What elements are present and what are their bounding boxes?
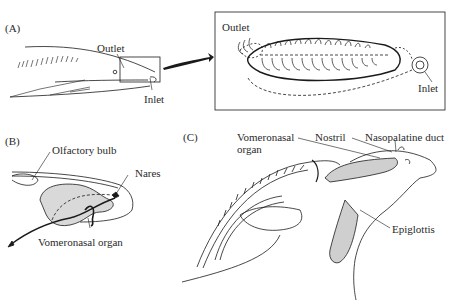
panel-label-c: (C) [183,131,198,143]
fish-head-drawing [10,47,160,97]
label-outlet: Outlet [97,42,125,54]
inset-label-inlet: Inlet [418,82,438,94]
inset-label-outlet: Outlet [222,21,250,33]
label-epiglottis: Epiglottis [392,223,435,235]
arrow-icon [163,53,214,70]
label-inlet: Inlet [144,93,164,105]
label-nostril: Nostril [315,131,346,143]
label-olfactory-bulb: Olfactory bulb [52,144,116,156]
label-leaders-a [117,54,152,90]
olfactory-rosette-drawing [238,38,432,95]
label-vomeronasal-organ: Vomeronasal organ [38,236,123,248]
inset-frame [215,12,445,110]
label-nares: Nares [135,167,161,179]
label-nasopalatine-duct: Nasopalatine duct [365,131,444,143]
panel-label-b: (B) [5,135,20,147]
label-organ-c: organ [237,143,262,155]
label-vomeronasal-c: Vomeronasal [237,131,294,143]
panel-label-a: (A) [5,22,20,34]
